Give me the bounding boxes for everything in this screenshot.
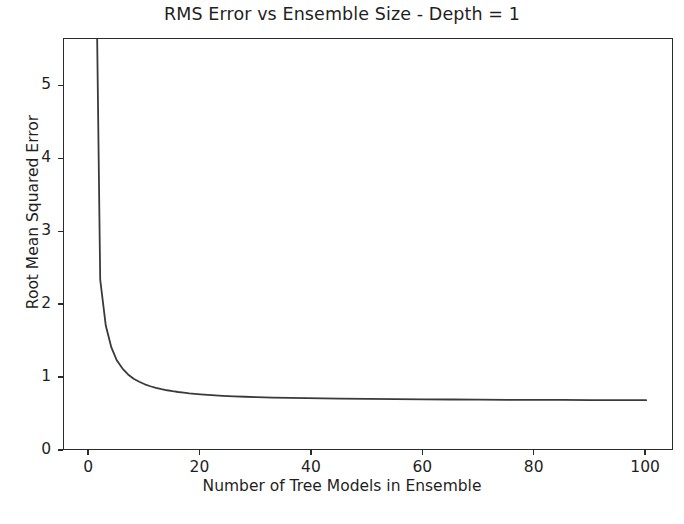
x-tick-label: 0 <box>48 458 128 476</box>
y-tick-label: 4 <box>41 148 51 166</box>
x-tick-mark <box>533 450 534 455</box>
chart-title: RMS Error vs Ensemble Size - Depth = 1 <box>0 4 684 24</box>
x-tick-mark <box>199 450 200 455</box>
y-tick-label: 5 <box>41 75 51 93</box>
x-tick-label: 100 <box>605 458 684 476</box>
x-tick-mark <box>310 450 311 455</box>
y-axis-label: Root Mean Squared Error <box>24 12 42 412</box>
x-tick-label: 60 <box>382 458 462 476</box>
y-tick-label: 1 <box>41 367 51 385</box>
x-tick-label: 40 <box>271 458 351 476</box>
plot-area <box>63 38 673 450</box>
rmse-line-series <box>64 39 673 450</box>
series-line-rmse <box>95 39 647 400</box>
y-tick-label: 3 <box>41 221 51 239</box>
x-tick-label: 20 <box>159 458 239 476</box>
x-tick-mark <box>87 450 88 455</box>
x-tick-mark <box>644 450 645 455</box>
x-tick-mark <box>422 450 423 455</box>
y-tick-label: 2 <box>41 294 51 312</box>
x-axis-label: Number of Tree Models in Ensemble <box>0 477 684 495</box>
x-tick-label: 80 <box>494 458 574 476</box>
page-caption <box>0 513 684 524</box>
y-tick-label: 0 <box>41 440 51 458</box>
chart-figure: RMS Error vs Ensemble Size - Depth = 1 R… <box>0 0 684 524</box>
